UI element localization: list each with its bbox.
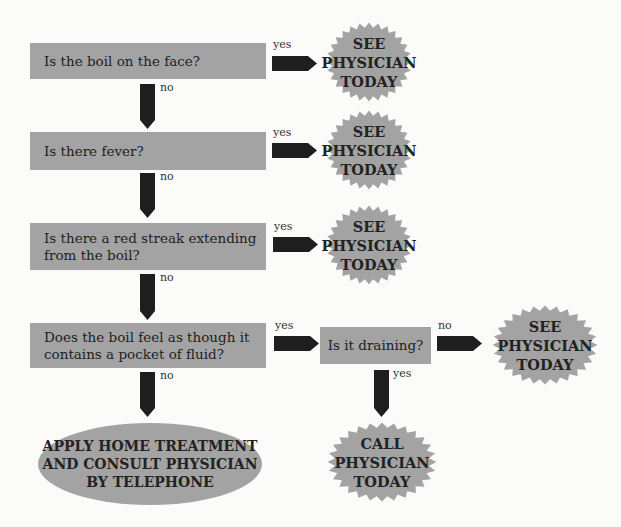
edge-label-yes: yes bbox=[273, 38, 291, 51]
outcome-see-physician-2: SEE PHYSICIAN TODAY bbox=[326, 110, 412, 190]
question-draining: Is it draining? bbox=[320, 327, 431, 364]
outcome-line: PHYSICIAN bbox=[321, 141, 416, 160]
edge-label-yes: yes bbox=[393, 367, 411, 380]
edge-label-no: no bbox=[160, 170, 174, 183]
question-fever: Is there fever? bbox=[30, 132, 266, 170]
arrow-right-icon bbox=[437, 336, 483, 351]
outcome-line: TODAY bbox=[354, 472, 411, 491]
question-face: Is the boil on the face? bbox=[30, 43, 266, 79]
question-pocket-of-fluid: Does the boil feel as though it contains… bbox=[30, 323, 266, 368]
outcome-line: TODAY bbox=[341, 72, 398, 91]
arrow-down-icon bbox=[140, 84, 155, 129]
outcome-home-treatment: APPLY HOME TREATMENT AND CONSULT PHYSICI… bbox=[38, 423, 262, 505]
arrow-right-icon bbox=[273, 237, 319, 252]
outcome-line: TODAY bbox=[341, 160, 398, 179]
edge-label-no: no bbox=[160, 271, 174, 284]
outcome-see-physician-3: SEE PHYSICIAN TODAY bbox=[326, 205, 412, 285]
arrow-right-icon bbox=[272, 56, 318, 71]
outcome-see-physician-1: SEE PHYSICIAN TODAY bbox=[326, 22, 412, 102]
question-text-line-1: Does the boil feel as though it bbox=[44, 329, 249, 346]
arrow-down-icon bbox=[140, 372, 155, 417]
question-text-line-2: from the boil? bbox=[44, 247, 256, 264]
arrow-down-icon bbox=[374, 370, 389, 417]
question-red-streak: Is there a red streak extending from the… bbox=[30, 223, 266, 270]
outcome-see-physician-4: SEE PHYSICIAN TODAY bbox=[492, 305, 598, 385]
outcome-line: PHYSICIAN bbox=[321, 236, 416, 255]
edge-label-yes: yes bbox=[275, 319, 293, 332]
question-text: Is the boil on the face? bbox=[44, 53, 200, 70]
edge-label-no: no bbox=[160, 369, 174, 382]
arrow-right-icon bbox=[272, 143, 318, 158]
question-text-line-2: contains a pocket of fluid? bbox=[44, 346, 249, 363]
outcome-line: PHYSICIAN bbox=[321, 53, 416, 72]
edge-label-yes: yes bbox=[273, 126, 291, 139]
outcome-line: TODAY bbox=[517, 355, 574, 374]
outcome-line: TODAY bbox=[341, 255, 398, 274]
outcome-line: AND CONSULT PHYSICIAN bbox=[43, 455, 258, 473]
outcome-line: SEE bbox=[353, 34, 386, 53]
arrow-right-icon bbox=[274, 336, 320, 351]
outcome-line: SEE bbox=[353, 217, 386, 236]
outcome-line: BY TELEPHONE bbox=[86, 473, 213, 491]
outcome-line: CALL bbox=[360, 434, 403, 453]
outcome-line: PHYSICIAN bbox=[497, 336, 592, 355]
outcome-call-physician: CALL PHYSICIAN TODAY bbox=[327, 422, 437, 502]
edge-label-no: no bbox=[160, 81, 174, 94]
question-text: Is it draining? bbox=[328, 337, 424, 354]
outcome-line: SEE bbox=[353, 122, 386, 141]
question-text: Is there fever? bbox=[44, 143, 144, 160]
outcome-line: SEE bbox=[529, 317, 562, 336]
outcome-line: APPLY HOME TREATMENT bbox=[43, 437, 258, 455]
question-text-line-1: Is there a red streak extending bbox=[44, 230, 256, 247]
outcome-line: PHYSICIAN bbox=[334, 453, 429, 472]
arrow-down-icon bbox=[140, 274, 155, 320]
arrow-down-icon bbox=[140, 173, 155, 218]
edge-label-no: no bbox=[438, 319, 452, 332]
edge-label-yes: yes bbox=[274, 220, 292, 233]
